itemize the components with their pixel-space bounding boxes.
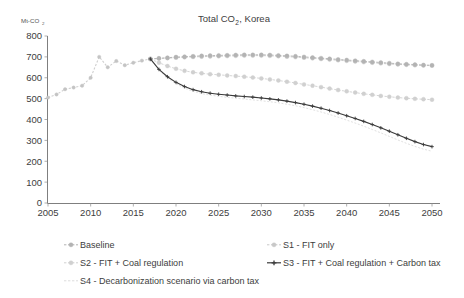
data-point-marker <box>387 61 391 65</box>
data-point-marker <box>165 64 169 68</box>
data-point-marker <box>251 76 255 80</box>
data-point-marker <box>242 53 246 57</box>
data-point-marker <box>430 98 434 102</box>
chart-title-text: Total CO <box>198 13 235 24</box>
data-point-marker <box>311 84 315 88</box>
data-point-marker <box>217 53 221 57</box>
data-point-marker <box>404 62 408 66</box>
data-point-marker <box>115 59 118 62</box>
data-point-marker <box>362 59 366 63</box>
chart-background <box>0 0 464 298</box>
legend-marker-circle <box>272 243 276 247</box>
data-point-marker <box>319 56 323 60</box>
y-tick-100: 100 <box>26 177 42 188</box>
data-point-marker <box>225 73 229 77</box>
data-point-marker <box>72 86 75 89</box>
data-point-marker <box>276 78 280 82</box>
x-tick-2040: 2040 <box>336 207 357 218</box>
legend-marker-circle <box>69 243 73 247</box>
y-tick-700: 700 <box>26 51 42 62</box>
data-point-marker <box>157 56 161 60</box>
data-point-marker <box>200 54 204 58</box>
data-point-marker <box>183 55 187 59</box>
data-point-marker <box>328 87 332 91</box>
x-tick-2035: 2035 <box>293 207 314 218</box>
data-point-marker <box>98 55 101 58</box>
data-point-marker <box>293 81 297 85</box>
y-axis-unit-text: Mt-CO <box>21 17 39 24</box>
data-point-marker <box>140 59 143 62</box>
data-point-marker <box>80 84 83 87</box>
x-tick-2030: 2030 <box>251 207 272 218</box>
data-point-marker <box>225 53 229 57</box>
data-point-marker <box>259 53 263 57</box>
legend-label: S2 - FIT + Coal regulation <box>80 258 183 268</box>
x-tick-2010: 2010 <box>80 207 101 218</box>
data-point-marker <box>370 93 374 97</box>
legend-marker-circle <box>69 261 73 265</box>
data-point-marker <box>89 76 92 79</box>
data-point-marker <box>55 93 58 96</box>
data-point-marker <box>285 80 289 84</box>
data-point-marker <box>404 96 408 100</box>
data-point-marker <box>174 55 178 59</box>
data-point-marker <box>165 56 169 60</box>
data-point-marker <box>63 88 66 91</box>
data-point-marker <box>46 96 49 99</box>
data-point-marker <box>293 54 297 58</box>
legend-item-s4-decarbonization-scenario-via-carbon-tax[interactable]: S4 - Decarbonization scenario via carbon… <box>64 276 260 286</box>
data-point-marker <box>336 57 340 61</box>
data-point-marker <box>345 58 349 62</box>
x-tick-2005: 2005 <box>37 207 58 218</box>
co2-scenario-line-chart: Total CO 2 , Korea Mt-CO 2 8007006005004… <box>0 0 464 298</box>
data-point-marker <box>268 53 272 57</box>
y-tick-800: 800 <box>26 30 42 41</box>
data-point-marker <box>208 54 212 58</box>
data-point-marker <box>183 69 187 73</box>
x-tick-2050: 2050 <box>421 207 442 218</box>
data-point-marker <box>208 72 212 76</box>
data-point-marker <box>379 94 383 98</box>
x-tick-2025: 2025 <box>208 207 229 218</box>
data-point-marker <box>336 88 340 92</box>
y-tick-500: 500 <box>26 93 42 104</box>
data-point-marker <box>362 92 366 96</box>
data-point-marker <box>311 56 315 60</box>
data-point-marker <box>413 97 417 101</box>
data-point-marker <box>217 73 221 77</box>
y-tick-600: 600 <box>26 72 42 83</box>
legend-item-s2-fit-coal-regulation[interactable]: S2 - FIT + Coal regulation <box>64 258 183 268</box>
y-tick-300: 300 <box>26 135 42 146</box>
data-point-marker <box>234 74 238 78</box>
data-point-marker <box>370 60 374 64</box>
data-point-marker <box>268 77 272 81</box>
data-point-marker <box>285 54 289 58</box>
data-point-marker <box>132 61 135 64</box>
data-point-marker <box>421 63 425 67</box>
chart-title-tail: , Korea <box>239 13 270 24</box>
data-point-marker <box>387 95 391 99</box>
legend-item-s3-fit-coal-regulation-carbon-tax[interactable]: S3 - FIT + Coal regulation + Carbon tax <box>267 258 441 268</box>
data-point-marker <box>234 53 238 57</box>
data-point-marker <box>106 66 109 69</box>
data-point-marker <box>353 59 357 63</box>
data-point-marker <box>430 63 434 67</box>
data-point-marker <box>396 62 400 66</box>
chart-container: Total CO 2 , Korea Mt-CO 2 8007006005004… <box>0 0 464 298</box>
data-point-marker <box>276 53 280 57</box>
data-point-marker <box>319 85 323 89</box>
y-tick-400: 400 <box>26 114 42 125</box>
legend-label: S4 - Decarbonization scenario via carbon… <box>80 276 260 286</box>
x-tick-2020: 2020 <box>165 207 186 218</box>
data-point-marker <box>259 76 263 80</box>
x-tick-2015: 2015 <box>123 207 144 218</box>
data-point-marker <box>379 61 383 65</box>
data-point-marker <box>191 54 195 58</box>
data-point-marker <box>191 70 195 74</box>
data-point-marker <box>157 61 161 65</box>
y-tick-200: 200 <box>26 156 42 167</box>
data-point-marker <box>302 82 306 86</box>
data-point-marker <box>421 97 425 101</box>
data-point-marker <box>123 64 126 67</box>
data-point-marker <box>174 67 178 71</box>
